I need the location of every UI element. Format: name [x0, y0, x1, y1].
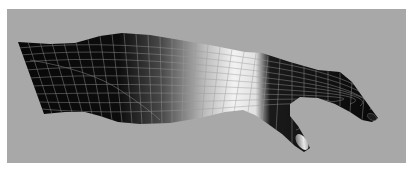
- arm-render: [0, 0, 413, 169]
